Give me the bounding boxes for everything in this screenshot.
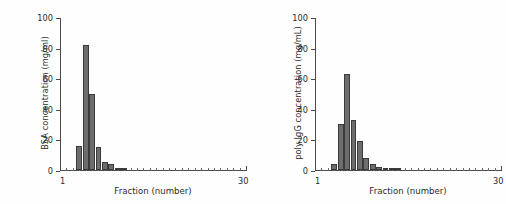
y-tick-label-bsa-100: 100 [37,13,53,23]
y-tick-poly-igg-0 [311,171,315,172]
bar-bsa-8 [102,162,108,170]
bar-bsa-6 [89,94,95,171]
plot-area-bsa: 020406080100 [60,18,246,171]
bar-poly-igg-7 [351,120,357,170]
y-axis-label-wrap-bsa: BSA concentration (mg/ml) [22,18,36,168]
x-axis-min-label-poly-igg: 1 [315,176,320,186]
x-axis-line-poly-igg [315,170,501,171]
y-tick-label-bsa-40: 40 [43,105,53,115]
bar-poly-igg-5 [338,124,344,170]
figure-two-panel-bar-charts: BSA concentration (mg/ml) 020406080100 1… [0,0,506,204]
y-tick-label-poly-igg-60: 60 [298,74,308,84]
y-tick-label-poly-igg-80: 80 [298,44,308,54]
bar-bsa-9 [108,164,114,170]
x-tick-bsa-30 [246,166,247,171]
panel-poly-igg: poly IgG concentration (mg/mL) 020406080… [253,0,506,204]
bar-bsa-7 [96,147,102,170]
bar-bsa-4 [76,146,82,170]
bar-poly-igg-13 [389,168,395,170]
bar-bsa-10 [115,168,121,170]
x-axis-line-bsa [60,170,246,171]
bar-poly-igg-11 [376,167,382,170]
x-axis-min-label-bsa: 1 [60,176,65,186]
y-tick-label-bsa-80: 80 [43,44,53,54]
y-axis-label-poly-igg: poly IgG concentration (mg/mL) [293,18,303,168]
bar-poly-igg-10 [370,164,376,170]
y-tick-label-bsa-20: 20 [43,135,53,145]
bar-poly-igg-4 [331,164,337,170]
x-axis-label-poly-igg: Fraction (number) [315,186,501,196]
bar-bsa-5 [83,45,89,170]
bar-poly-igg-8 [357,141,363,170]
y-axis-label-wrap-poly-igg: poly IgG concentration (mg/mL) [275,18,289,168]
y-tick-bsa-0 [56,171,60,172]
x-axis-label-bsa: Fraction (number) [60,186,246,196]
y-axis-label-bsa: BSA concentration (mg/ml) [40,18,50,168]
x-tick-poly-igg-30 [501,166,502,171]
bars-bsa [60,18,246,170]
bars-poly-igg [315,18,501,170]
y-tick-label-bsa-60: 60 [43,74,53,84]
y-tick-label-poly-igg-100: 100 [292,13,308,23]
plot-area-poly-igg: 020406080100 [315,18,501,171]
y-tick-label-poly-igg-20: 20 [298,135,308,145]
x-axis-max-label-bsa: 30 [238,176,248,186]
bar-poly-igg-6 [344,74,350,170]
y-tick-label-bsa-0: 0 [48,166,53,176]
bar-poly-igg-9 [363,158,369,170]
bar-poly-igg-14 [395,168,401,170]
bar-bsa-11 [121,168,127,170]
y-tick-label-poly-igg-40: 40 [298,105,308,115]
panel-bsa: BSA concentration (mg/ml) 020406080100 1… [0,0,253,204]
x-axis-max-label-poly-igg: 30 [493,176,503,186]
y-tick-label-poly-igg-0: 0 [303,166,308,176]
bar-poly-igg-12 [383,168,389,170]
